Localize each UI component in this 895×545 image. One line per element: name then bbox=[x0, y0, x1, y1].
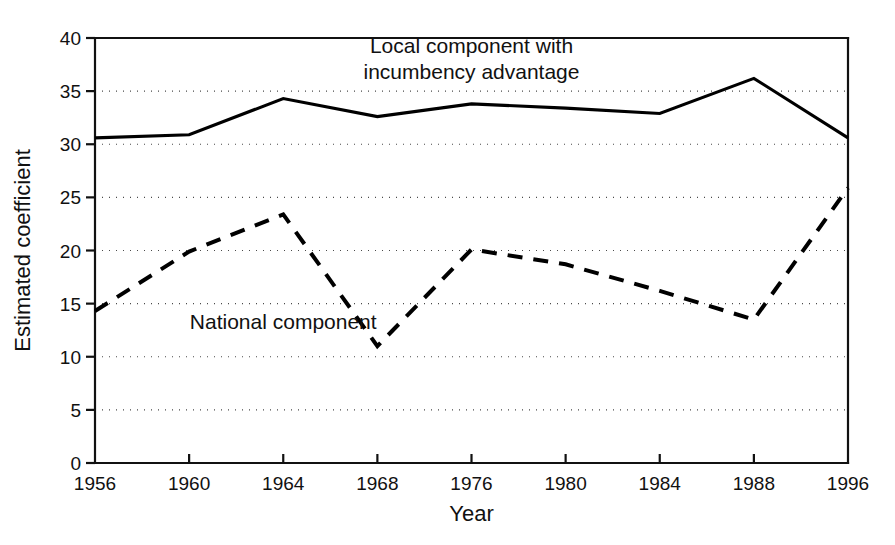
x-tick-label-1984: 1984 bbox=[639, 473, 682, 494]
y-tick-label-30: 30 bbox=[60, 134, 81, 155]
line-chart: 0510152025303540 19561960196419681976198… bbox=[0, 0, 895, 545]
y-tick-label-35: 35 bbox=[60, 81, 81, 102]
series-annotations-group: Local component withincumbency advantage… bbox=[190, 34, 580, 333]
x-tick-label-1960: 1960 bbox=[168, 473, 210, 494]
y-tick-labels-group: 0510152025303540 bbox=[60, 28, 81, 474]
figure-container: 0510152025303540 19561960196419681976198… bbox=[0, 0, 895, 545]
annotation-local-series-label: Local component withincumbency advantage bbox=[364, 34, 580, 83]
x-tick-label-1956: 1956 bbox=[74, 473, 116, 494]
x-tick-label-1996: 1996 bbox=[827, 473, 869, 494]
x-tick-label-1988: 1988 bbox=[733, 473, 775, 494]
annotation-line: National component bbox=[190, 310, 377, 333]
y-tick-label-20: 20 bbox=[60, 241, 81, 262]
annotation-national-series-label: National component bbox=[190, 310, 377, 333]
data-series-group bbox=[95, 78, 848, 346]
y-tick-label-10: 10 bbox=[60, 347, 81, 368]
x-tick-label-1964: 1964 bbox=[262, 473, 305, 494]
annotation-line: incumbency advantage bbox=[364, 60, 580, 83]
x-tick-label-1980: 1980 bbox=[544, 473, 586, 494]
y-tick-label-25: 25 bbox=[60, 187, 81, 208]
x-axis-title: Year bbox=[449, 501, 493, 526]
y-tick-label-15: 15 bbox=[60, 294, 81, 315]
x-tick-label-1976: 1976 bbox=[450, 473, 492, 494]
x-tick-labels-group: 195619601964196819761980198419881996 bbox=[74, 473, 869, 494]
y-tick-label-40: 40 bbox=[60, 28, 81, 49]
annotation-line: Local component with bbox=[370, 34, 573, 57]
series-line-local bbox=[95, 78, 848, 138]
x-tick-label-1968: 1968 bbox=[356, 473, 398, 494]
y-tick-label-5: 5 bbox=[70, 400, 81, 421]
y-axis-title: Estimated coefficient bbox=[10, 149, 35, 352]
y-tick-label-0: 0 bbox=[70, 453, 81, 474]
